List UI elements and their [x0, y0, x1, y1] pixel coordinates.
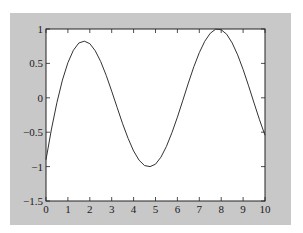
x-tick-label: 1: [65, 203, 71, 215]
x-tick-label: 3: [109, 203, 115, 215]
x-tick-label: 5: [153, 203, 159, 215]
line-chart: 012345678910 −1.5−1−0.500.51: [10, 13, 291, 225]
y-tick-label: 0: [38, 92, 44, 104]
x-tick-label: 9: [240, 203, 246, 215]
y-tick-label: 1: [38, 23, 44, 35]
x-tick-label: 2: [87, 203, 93, 215]
y-tick-label: 0.5: [29, 57, 43, 69]
y-tick-label: −1.5: [23, 195, 43, 207]
y-tick-label: −0.5: [23, 126, 43, 138]
x-tick-label: 8: [218, 203, 224, 215]
axes-area: [46, 29, 265, 201]
x-tick-label: 4: [131, 203, 137, 215]
x-tick-label: 7: [197, 203, 203, 215]
x-tick-label: 10: [260, 203, 272, 215]
x-tick-label: 6: [175, 203, 181, 215]
x-tick-label: 0: [43, 203, 49, 215]
figure-background: 012345678910 −1.5−1−0.500.51: [10, 13, 291, 225]
y-tick-label: −1: [31, 161, 43, 173]
